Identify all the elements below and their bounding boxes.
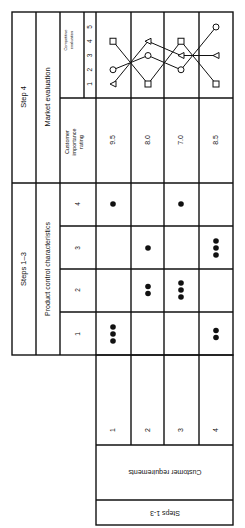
triangle-marker: [178, 53, 184, 59]
competitive-evaluation-label: evaluation: [69, 31, 74, 49]
square-marker: [110, 38, 116, 44]
importance-rating-3: 7.0: [177, 135, 184, 145]
competitive-evaluation-label: Competitive: [63, 29, 68, 51]
importance-rating-2: 8.0: [144, 135, 151, 145]
customer-importance-label: rating: [78, 135, 84, 149]
relationship-dot: [110, 338, 116, 344]
relationship-dot: [213, 238, 219, 244]
relationship-dot: [213, 335, 219, 341]
relationship-dot: [145, 291, 151, 297]
relationship-dot: [145, 245, 151, 251]
characteristic-1: 1: [74, 332, 81, 336]
importance-rating-1: 9.5: [109, 135, 116, 145]
triangle-marker: [213, 53, 219, 59]
square-marker: [213, 81, 219, 87]
triangle-marker: [110, 81, 116, 87]
relationship-dot: [178, 294, 184, 300]
relationship-dot: [110, 324, 116, 330]
relationship-dot: [178, 280, 184, 286]
customer-importance-label: importance: [71, 128, 77, 155]
circle-marker: [145, 53, 151, 59]
relationship-dot: [145, 284, 151, 290]
market-evaluation-label: Market evaluation: [43, 67, 52, 126]
scale-tick-2: 2: [86, 68, 93, 72]
scale-tick-5: 5: [86, 25, 93, 29]
characteristic-3: 3: [74, 246, 81, 250]
circle-marker: [178, 67, 184, 73]
scale-tick-3: 3: [86, 53, 93, 57]
steps-1-3-label: Steps 1–3: [19, 252, 28, 286]
product-control-characteristics-label: Product control characteristics: [44, 222, 51, 316]
relationship-dot: [213, 328, 219, 334]
square-marker: [145, 81, 151, 87]
relationship-dot: [213, 252, 219, 258]
requirement-number-3: 3: [177, 428, 184, 432]
qfd-matrix-diagram: Step 4Market evaluationSteps 1–3Product …: [0, 0, 245, 528]
step4-label: Step 4: [19, 86, 28, 108]
scale-tick-4: 4: [86, 39, 93, 43]
scale-tick-1: 1: [86, 82, 93, 86]
requirement-number-2: 2: [144, 428, 151, 432]
relationship-dot: [110, 201, 116, 207]
importance-rating-4: 8.5: [212, 135, 219, 145]
relationship-dot: [178, 201, 184, 207]
relationship-dot: [213, 245, 219, 251]
requirement-number-4: 4: [212, 428, 219, 432]
relationship-dot: [178, 287, 184, 293]
steps-1-3-bottom-label: Steps 1-3: [150, 509, 180, 517]
square-marker: [178, 38, 184, 44]
circle-marker: [213, 24, 219, 30]
characteristic-4: 4: [74, 202, 81, 206]
characteristic-2: 2: [74, 288, 81, 292]
circle-marker: [110, 67, 116, 73]
relationship-dot: [110, 331, 116, 337]
requirement-number-1: 1: [109, 428, 116, 432]
customer-requirements-label: Customer requirements: [128, 468, 202, 476]
customer-importance-label: Customer: [64, 130, 70, 154]
